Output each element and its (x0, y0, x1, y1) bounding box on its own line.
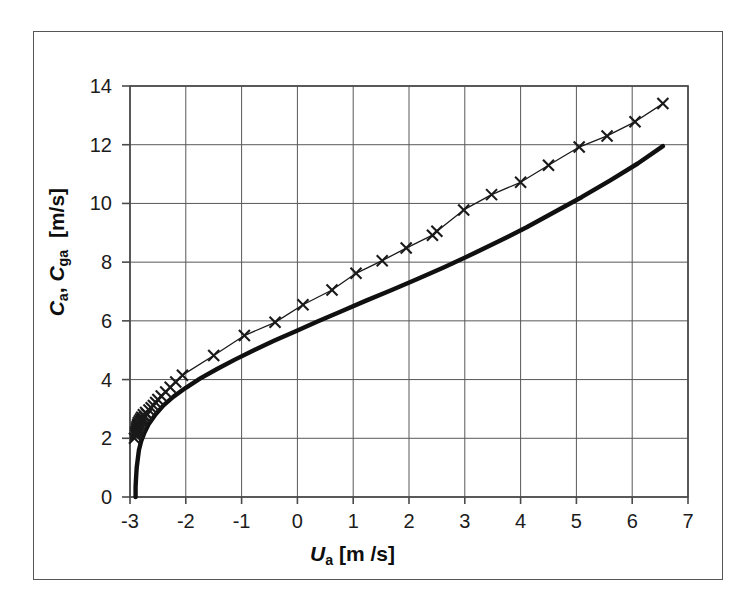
x-tick-label: 6 (607, 511, 657, 531)
series-cga-markers (129, 98, 668, 444)
y-axis-subscript-2: ga (55, 250, 71, 267)
y-axis-unit: [m/s] (45, 188, 68, 238)
x-tick-label: 5 (551, 511, 601, 531)
x-tick-label: -2 (161, 511, 211, 531)
y-tick-label: 14 (56, 76, 112, 96)
x-axis-subscript: a (325, 552, 333, 568)
x-tick-label: -1 (217, 511, 267, 531)
x-axis-unit: [m /s] (339, 542, 395, 565)
axis-ticks-group (122, 86, 688, 504)
x-tick-label: 7 (663, 511, 713, 531)
gridlines-group (130, 86, 688, 497)
y-tick-label: 2 (56, 428, 112, 448)
x-tick-label: 1 (328, 511, 378, 531)
y-axis-separator: , (45, 282, 68, 294)
series-ca-thick-line (136, 146, 663, 497)
x-tick-label: 4 (496, 511, 546, 531)
y-axis-symbol-1: C (45, 301, 68, 316)
y-axis-subscript-1: a (55, 293, 71, 301)
figure-container: 02468101214 -3-2-101234567 Ua [m /s] Ca,… (0, 0, 755, 613)
x-tick-label: 3 (440, 511, 490, 531)
y-tick-label: 4 (56, 370, 112, 390)
x-tick-label: 0 (272, 511, 322, 531)
series-cga-line (134, 104, 662, 439)
y-axis-symbol-2: C (45, 266, 68, 281)
x-axis-title: Ua [m /s] (310, 543, 395, 567)
y-axis-title: Ca, Cga [m/s] (46, 132, 70, 372)
x-tick-label: 2 (384, 511, 434, 531)
x-axis-symbol: U (310, 542, 325, 565)
y-tick-label: 0 (56, 487, 112, 507)
x-tick-label: -3 (105, 511, 155, 531)
